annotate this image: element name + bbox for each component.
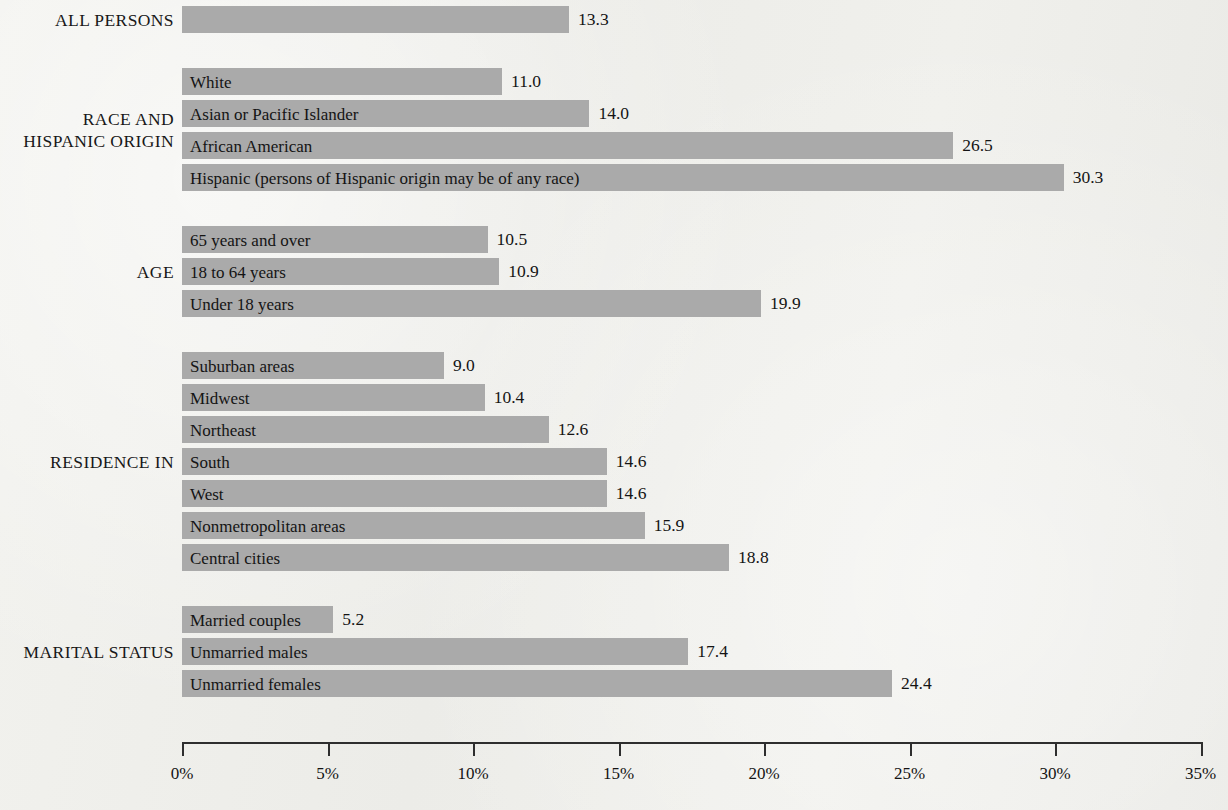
- x-axis-tick-label: 15%: [603, 764, 634, 784]
- bar-row: Married couples5.2: [182, 606, 1228, 633]
- bar: [182, 480, 607, 507]
- bar-row: Nonmetropolitan areas15.9: [182, 512, 1228, 539]
- x-axis-tick: [473, 742, 475, 756]
- group-label-age: AGE: [0, 261, 174, 283]
- bar-value-label: 26.5: [962, 137, 993, 155]
- bar-row: West14.6: [182, 480, 1228, 507]
- group-label-all-persons: ALL PERSONS: [0, 9, 174, 31]
- x-axis-tick-label: 5%: [316, 764, 339, 784]
- bar-category-label: Northeast: [190, 421, 256, 438]
- x-axis-tick: [328, 742, 330, 756]
- bar-value-label: 14.6: [616, 453, 647, 471]
- bar-row: Unmarried males17.4: [182, 638, 1228, 665]
- x-axis-tick-label: 0%: [171, 764, 194, 784]
- bar-category-label: West: [190, 485, 224, 502]
- bar-category-label: Suburban areas: [190, 357, 294, 374]
- bar-category-label: White: [190, 73, 232, 90]
- bar-value-label: 10.4: [494, 389, 525, 407]
- bar-value-label: 13.3: [578, 11, 609, 29]
- x-axis-tick-label: 10%: [457, 764, 488, 784]
- bar-row: 18 to 64 years10.9: [182, 258, 1228, 285]
- x-axis-tick-label: 30%: [1039, 764, 1070, 784]
- bar-row: African American26.5: [182, 132, 1228, 159]
- bar-value-label: 12.6: [558, 421, 589, 439]
- bar-category-label: 18 to 64 years: [190, 263, 286, 280]
- bar-row: Asian or Pacific Islander14.0: [182, 100, 1228, 127]
- bar-row: Hispanic (persons of Hispanic origin may…: [182, 164, 1228, 191]
- bar-value-label: 24.4: [901, 675, 932, 693]
- bar-category-label: 65 years and over: [190, 231, 310, 248]
- x-axis-tick: [910, 742, 912, 756]
- bar-value-label: 10.5: [497, 231, 528, 249]
- group-label-race-and-hispanic-origin: RACE AND HISPANIC ORIGIN: [0, 108, 174, 152]
- bar-value-label: 18.8: [738, 549, 769, 567]
- group-label-residence-in: RESIDENCE IN: [0, 451, 174, 473]
- bar-category-label: Unmarried females: [190, 675, 321, 692]
- x-axis-tick: [1055, 742, 1057, 756]
- x-axis-tick: [619, 742, 621, 756]
- bar: [182, 6, 569, 33]
- bar-category-label: Asian or Pacific Islander: [190, 105, 359, 122]
- x-axis-tick-label: 20%: [748, 764, 779, 784]
- bar-value-label: 14.0: [598, 105, 629, 123]
- bar-row: Unmarried females24.4: [182, 670, 1228, 697]
- bar-category-label: Unmarried males: [190, 643, 308, 660]
- bar-value-label: 14.6: [616, 485, 647, 503]
- bar-value-label: 5.2: [342, 611, 364, 629]
- bar-category-label: Under 18 years: [190, 295, 294, 312]
- bar: [182, 448, 607, 475]
- x-axis-tick-label: 25%: [894, 764, 925, 784]
- bar-category-label: Hispanic (persons of Hispanic origin may…: [190, 169, 579, 186]
- x-axis-tick: [764, 742, 766, 756]
- x-axis-line: [182, 742, 1201, 744]
- bar-row: White11.0: [182, 68, 1228, 95]
- bar-row: Central cities18.8: [182, 544, 1228, 571]
- bar-category-label: Midwest: [190, 389, 250, 406]
- bar-row: South14.6: [182, 448, 1228, 475]
- bar-row: 13.3: [182, 6, 1228, 33]
- bar-row: Suburban areas9.0: [182, 352, 1228, 379]
- x-axis-tick: [1201, 742, 1203, 756]
- bar-category-label: South: [190, 453, 230, 470]
- bar-row: Under 18 years19.9: [182, 290, 1228, 317]
- bar-row: 65 years and over10.5: [182, 226, 1228, 253]
- bar-value-label: 30.3: [1073, 169, 1104, 187]
- bar-value-label: 10.9: [508, 263, 539, 281]
- bar-row: Midwest10.4: [182, 384, 1228, 411]
- bar-value-label: 17.4: [697, 643, 728, 661]
- bar-category-label: African American: [190, 137, 312, 154]
- x-axis-tick-label: 35%: [1185, 764, 1216, 784]
- bar-value-label: 15.9: [654, 517, 685, 535]
- bar-value-label: 9.0: [453, 357, 475, 375]
- bar-category-label: Married couples: [190, 611, 301, 628]
- bar-category-label: Central cities: [190, 549, 280, 566]
- bar-value-label: 11.0: [511, 73, 541, 91]
- bar-row: Northeast12.6: [182, 416, 1228, 443]
- horizontal-bar-chart: 13.3ALL PERSONSWhite11.0Asian or Pacific…: [0, 0, 1228, 810]
- group-label-marital-status: MARITAL STATUS: [0, 641, 174, 663]
- bar-category-label: Nonmetropolitan areas: [190, 517, 345, 534]
- x-axis-tick: [182, 742, 184, 756]
- bar-value-label: 19.9: [770, 295, 801, 313]
